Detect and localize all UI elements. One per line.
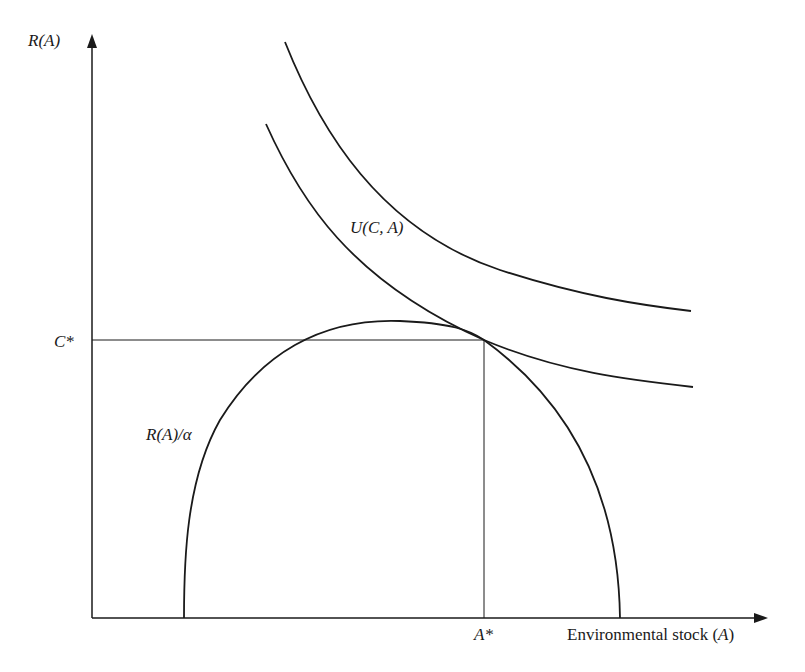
indifference-curve-lower	[266, 124, 693, 387]
diagram: R(A) C* A* Environmental stock (A) R(A)/…	[0, 0, 805, 672]
regeneration-curve-label: R(A)/α	[145, 425, 193, 444]
x-axis-label: Environmental stock (A)	[567, 625, 734, 644]
y-axis-label: R(A)	[27, 31, 60, 50]
utility-curve-label: U(C, A)	[350, 218, 404, 237]
regeneration-curve	[184, 321, 620, 618]
y-axis-arrow-icon	[87, 34, 97, 48]
a-star-label: A*	[473, 625, 493, 644]
c-star-label: C*	[54, 332, 74, 351]
x-axis-arrow-icon	[754, 613, 768, 623]
indifference-curve-upper	[285, 42, 691, 311]
